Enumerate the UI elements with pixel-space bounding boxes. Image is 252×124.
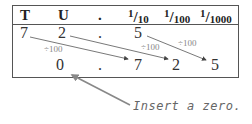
insert-zero-pointer-arrow bbox=[72, 75, 130, 105]
shift-arrow-units bbox=[70, 36, 168, 59]
insert-zero-annotation: Insert a zero. bbox=[133, 99, 241, 113]
shift-arrow-tens bbox=[30, 37, 128, 59]
